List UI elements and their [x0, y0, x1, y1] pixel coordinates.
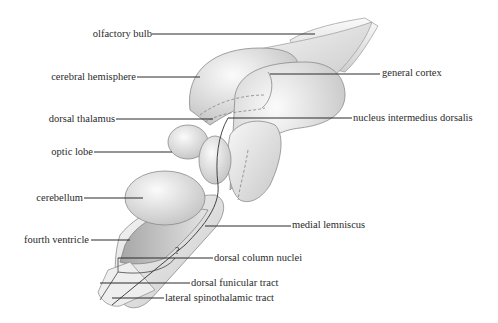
label-cerebellum: cerebellum	[0, 192, 83, 204]
brain-diagram: ? olfactory bulb cerebral hemisphere dor…	[0, 0, 498, 323]
label-dorsal-thalamus: dorsal thalamus	[10, 113, 115, 125]
label-cerebral-hemisphere: cerebral hemisphere	[20, 71, 136, 83]
label-olfactory-bulb: olfactory bulb	[60, 28, 152, 40]
question-mark: ?	[175, 245, 180, 256]
hemisphere-lower-shape	[228, 121, 281, 201]
label-fourth-ventricle: fourth ventricle	[0, 234, 89, 246]
label-optic-lobe: optic lobe	[10, 146, 93, 158]
label-dorsal-funicular-tract: dorsal funicular tract	[191, 277, 278, 289]
label-lateral-spinothalamic-tract: lateral spinothalamic tract	[165, 292, 274, 304]
label-medial-lemniscus: medial lemniscus	[292, 219, 365, 231]
optic-lobe-near-shape	[199, 136, 231, 184]
label-general-cortex: general cortex	[382, 67, 442, 79]
label-nucleus-intermedius-dorsalis: nucleus intermedius dorsalis	[353, 112, 473, 124]
label-dorsal-column-nuclei: dorsal column nuclei	[214, 252, 302, 264]
brain-illustration: ?	[0, 0, 498, 323]
